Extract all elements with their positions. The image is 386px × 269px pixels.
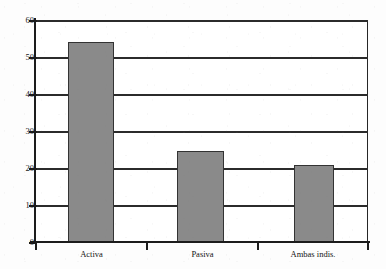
y-tick-label-10: 10 <box>8 201 34 210</box>
x-tick-mark-2 <box>257 243 259 250</box>
x-axis-line <box>30 241 370 243</box>
x-tick-label-activa: Activa <box>36 250 147 259</box>
y-tick-label-30: 30 <box>8 127 34 136</box>
y-tick-label-40: 40 <box>8 90 34 99</box>
y-tick-label-50: 50 <box>8 53 34 62</box>
bar-activa <box>68 42 114 242</box>
y-tick-label-60: 60 <box>8 16 34 25</box>
bar-pasiva <box>177 151 224 242</box>
bar-ambas-indis <box>294 165 334 242</box>
x-tick-mark-1 <box>146 243 148 250</box>
x-tick-label-ambas-indis: Ambas indis. <box>258 250 368 259</box>
y-tick-label-20: 20 <box>8 164 34 173</box>
x-tick-mark-3 <box>367 243 369 250</box>
bar-chart: 60 50 40 30 20 10 0 Activa Pasiva Ambas … <box>0 0 386 269</box>
gridline-60 <box>36 20 368 22</box>
y-tick-label-0: 0 <box>8 238 34 247</box>
x-tick-label-pasiva: Pasiva <box>147 250 258 259</box>
x-tick-mark-0 <box>35 243 37 250</box>
